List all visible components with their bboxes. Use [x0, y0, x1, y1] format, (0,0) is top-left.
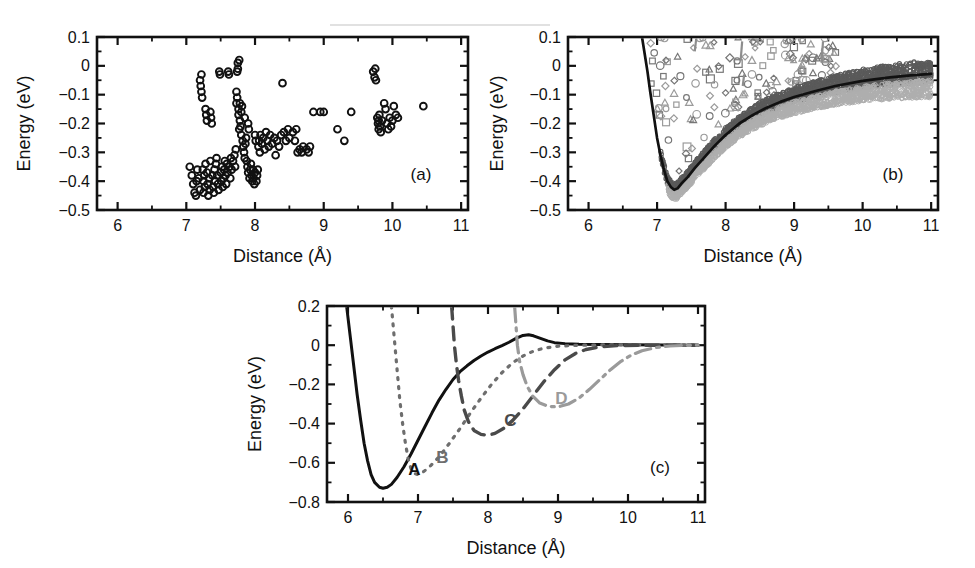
- data-point: [348, 109, 355, 116]
- outlier-marker: [671, 77, 678, 84]
- y-tick-label: −0.3: [529, 144, 561, 161]
- data-point: [279, 80, 286, 87]
- x-tick-label: 6: [584, 217, 593, 234]
- outlier-marker: [663, 119, 670, 126]
- y-tick-label: 0: [311, 337, 320, 354]
- panel-a-plot: 678910110.10−0.1−0.2−0.3−0.4−0.5(a)Dista…: [0, 0, 490, 280]
- y-tick-label: 0.2: [298, 298, 320, 315]
- data-point: [310, 109, 317, 116]
- streak-artifact: [822, 41, 824, 63]
- y-axis-label: Energy (eV): [245, 356, 265, 452]
- curve-D: [515, 306, 698, 407]
- panel-c-plot: 678910110.20−0.2−0.4−0.6−0.8(c)ABCDDista…: [235, 283, 735, 568]
- outlier-marker: [767, 39, 773, 45]
- data-point: [341, 137, 348, 144]
- panel-c-group: 678910110.20−0.2−0.4−0.6−0.8(c)ABCDDista…: [245, 298, 706, 559]
- outlier-marker: [768, 53, 774, 59]
- outlier-marker: [662, 82, 669, 89]
- y-tick-label: −0.4: [529, 173, 561, 190]
- panel-tag: (c): [650, 458, 670, 477]
- outlier-marker: [742, 54, 748, 60]
- streak-artifact: [741, 41, 742, 60]
- panel-tag: (a): [411, 165, 432, 184]
- y-tick-label: 0.1: [68, 29, 90, 46]
- x-axis-label: Distance (Å): [233, 246, 332, 266]
- panel-c: 678910110.20−0.2−0.4−0.6−0.8(c)ABCDDista…: [235, 283, 735, 568]
- outlier-marker: [726, 54, 734, 62]
- outlier-marker: [684, 95, 690, 101]
- y-tick-label: −0.1: [529, 86, 561, 103]
- panel-a-group: 678910110.10−0.1−0.2−0.3−0.4−0.5(a)Dista…: [14, 29, 470, 267]
- x-axis-label: Distance (Å): [466, 538, 565, 558]
- y-tick-label: −0.2: [529, 115, 561, 132]
- panel-b: 678910110.10−0.1−0.2−0.3−0.4−0.5(b)Dista…: [485, 0, 975, 280]
- outlier-marker: [771, 48, 776, 53]
- y-tick-label: −0.3: [58, 144, 90, 161]
- panel-tag: (b): [883, 165, 904, 184]
- outlier-marker: [706, 113, 713, 120]
- y-tick-label: −0.1: [58, 86, 90, 103]
- outlier-marker: [807, 41, 814, 47]
- data-point: [390, 103, 397, 110]
- y-tick-label: −0.2: [58, 115, 90, 132]
- outlier-marker: [651, 50, 657, 56]
- y-tick-label: −0.4: [288, 415, 320, 432]
- y-tick-label: −0.5: [529, 202, 561, 219]
- x-tick-label: 10: [619, 509, 637, 526]
- x-tick-label: 9: [790, 217, 799, 234]
- curve-label-D: D: [555, 389, 567, 408]
- outlier-marker: [756, 74, 762, 80]
- outlier-marker: [656, 62, 664, 70]
- x-tick-label: 10: [384, 217, 402, 234]
- outlier-marker: [715, 121, 722, 127]
- streak-artifact: [743, 74, 745, 86]
- x-tick-label: 7: [653, 217, 662, 234]
- x-tick-label: 7: [414, 509, 423, 526]
- outlier-marker: [670, 115, 677, 122]
- scatter-layer: [186, 57, 426, 199]
- outlier-marker: [663, 57, 669, 63]
- outlier-marker: [662, 99, 669, 105]
- x-tick-label: 6: [113, 217, 122, 234]
- outlier-marker: [665, 137, 671, 143]
- outlier-marker: [760, 63, 766, 69]
- panel-b-group: 678910110.10−0.1−0.2−0.3−0.4−0.5(b)Dista…: [487, 29, 940, 267]
- outlier-marker: [744, 81, 751, 88]
- x-tick-label: 11: [923, 217, 940, 234]
- y-tick-label: −0.2: [288, 376, 320, 393]
- streak-artifact: [695, 38, 697, 51]
- y-tick-label: −0.8: [288, 494, 320, 511]
- panel-a: 678910110.10−0.1−0.2−0.3−0.4−0.5(a)Dista…: [0, 0, 490, 280]
- outlier-marker: [653, 90, 659, 96]
- y-tick-label: 0: [81, 57, 90, 74]
- outlier-marker: [650, 58, 656, 64]
- curve-label-C: C: [504, 411, 516, 430]
- x-tick-label: 10: [854, 217, 872, 234]
- data-point: [272, 152, 279, 159]
- y-axis-label: Energy (eV): [487, 75, 507, 171]
- outlier-marker: [707, 92, 714, 99]
- y-tick-label: 0: [552, 57, 561, 74]
- data-point: [334, 126, 341, 133]
- x-tick-label: 6: [344, 509, 353, 526]
- outlier-marker: [748, 71, 755, 78]
- x-axis-label: Distance (Å): [703, 246, 802, 266]
- outlier-marker: [686, 99, 693, 106]
- panel-b-plot: 678910110.10−0.1−0.2−0.3−0.4−0.5(b)Dista…: [485, 0, 975, 280]
- outlier-marker: [663, 106, 669, 112]
- outlier-marker: [694, 65, 701, 72]
- data-point: [186, 163, 193, 170]
- curve-C: [452, 306, 698, 435]
- data-point: [420, 103, 427, 110]
- x-tick-label: 7: [182, 217, 191, 234]
- outlier-marker: [810, 70, 817, 76]
- x-tick-label: 9: [554, 509, 563, 526]
- outlier-marker: [674, 102, 679, 107]
- y-tick-label: −0.5: [58, 202, 90, 219]
- outlier-marker: [831, 50, 837, 55]
- outlier-marker: [670, 90, 677, 97]
- outlier-marker: [806, 51, 812, 57]
- outlier-marker: [711, 104, 718, 111]
- outlier-marker: [752, 45, 758, 51]
- x-tick-label: 9: [319, 217, 328, 234]
